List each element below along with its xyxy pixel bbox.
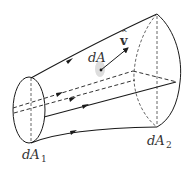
right-cross-section-back [134, 14, 157, 127]
right-cross-section-front [157, 14, 181, 127]
interior-streamline-lower [14, 80, 135, 113]
arrow-dashed-upper-icon [56, 92, 63, 97]
velocity-hat: ^ [121, 28, 128, 37]
left-area-subscript: 1 [41, 154, 47, 164]
left-cross-section [13, 77, 45, 143]
arrow-dashed-lower-icon [69, 97, 76, 102]
left-area-label: dA [22, 147, 40, 162]
right-area-subscript: 2 [166, 140, 172, 150]
tube-bottom-edge [31, 127, 157, 143]
arrow-front-line-icon [82, 104, 89, 109]
right-area-label: dA [147, 133, 165, 148]
interior-streamline-back [133, 71, 177, 82]
tube-top-edge [31, 14, 157, 78]
flow-tube-diagram: dA v ^ dA 1 dA 2 [0, 0, 185, 172]
side-area-label: dA [88, 50, 106, 65]
